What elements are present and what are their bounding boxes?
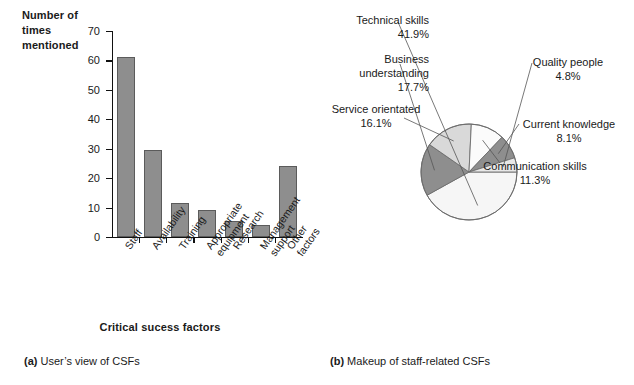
pie-label-quality-people: Quality people 4.8%	[514, 55, 622, 83]
y-axis-tick	[106, 178, 112, 179]
y-axis-tick	[106, 31, 112, 32]
pie-label-current-knowledge: Current knowledge 8.1%	[506, 117, 632, 145]
y-axis-tick-label: 20	[74, 173, 100, 184]
caption-a-text: User’s view of CSFs	[37, 355, 139, 367]
caption-a-key: (a)	[24, 355, 37, 367]
caption-b-text: Makeup of staff-related CSFs	[344, 355, 490, 367]
y-axis-tick-label: 0	[74, 232, 100, 243]
caption-b: (b) Makeup of staff-related CSFs	[330, 355, 490, 367]
y-axis-line	[112, 31, 113, 238]
y-axis-tick-label: 70	[74, 26, 100, 37]
y-axis-tick-label: 50	[74, 85, 100, 96]
y-axis-tick-label: 10	[74, 203, 100, 214]
y-axis-label-line-1: Number of	[22, 8, 102, 23]
y-axis-tick-label: 60	[74, 55, 100, 66]
x-axis-title: Critical sucess factors	[0, 321, 320, 333]
y-axis-tick-label: 30	[74, 144, 100, 155]
pie-label-service-orientated: Service orientated 16.1%	[315, 102, 437, 130]
y-axis-tick	[106, 119, 112, 120]
y-axis-tick	[106, 149, 112, 150]
pie-label-business-understanding: Business understanding 17.7%	[317, 52, 429, 94]
caption-a: (a) User’s view of CSFs	[24, 355, 140, 367]
y-axis-tick	[106, 237, 112, 238]
figure-csf-charts: Number of times mentioned 70605040302010…	[0, 0, 634, 385]
y-axis-tick	[106, 60, 112, 61]
bar	[117, 57, 135, 237]
bar-chart-panel: Number of times mentioned 70605040302010…	[0, 0, 320, 385]
y-axis-tick	[106, 208, 112, 209]
pie-label-communication-skills: Communication skills 11.3%	[460, 159, 610, 187]
pie-label-technical-skills: Technical skills 41.9%	[319, 13, 429, 41]
y-axis-tick	[106, 90, 112, 91]
y-axis-label-line-3: mentioned	[22, 38, 102, 53]
pie-chart-panel: Technical skills 41.9% Business understa…	[320, 0, 634, 385]
y-axis-tick-label: 40	[74, 114, 100, 125]
caption-b-key: (b)	[330, 355, 344, 367]
